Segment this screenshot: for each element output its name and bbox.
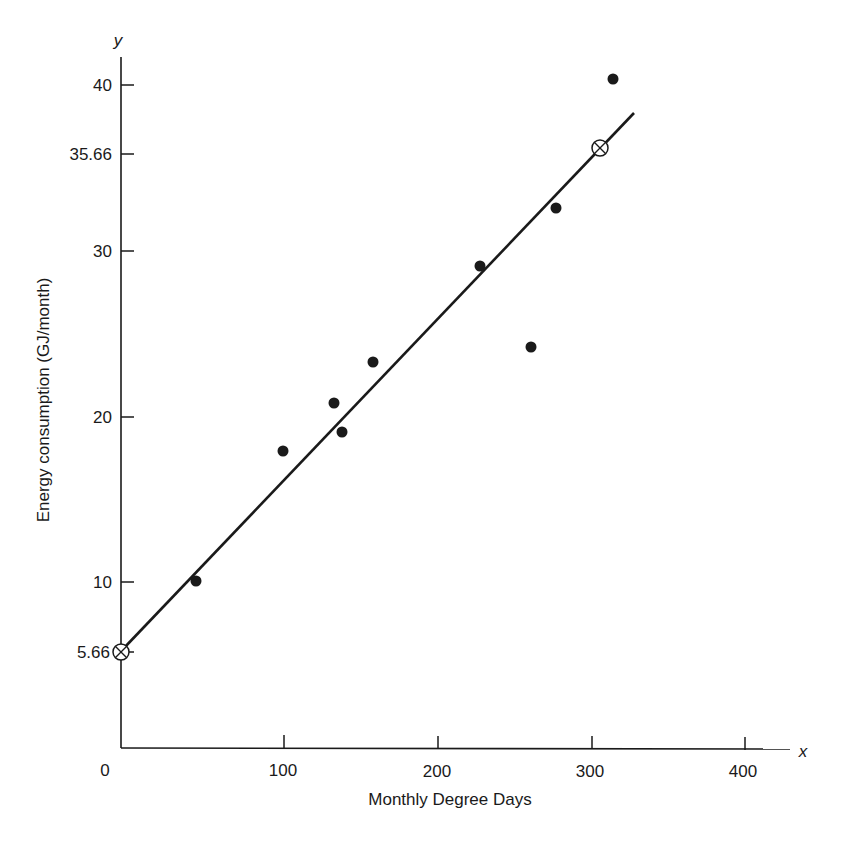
data-point <box>191 576 202 587</box>
x-axis-title: Monthly Degree Days <box>368 790 531 809</box>
y-axis-title: Energy consumption (GJ/month) <box>34 278 53 523</box>
svg-text:40: 40 <box>93 76 112 95</box>
y-tick-labels: 40 35.66 30 20 10 5.66 <box>69 76 112 662</box>
svg-text:5.66: 5.66 <box>77 643 110 662</box>
svg-text:35.66: 35.66 <box>69 145 112 164</box>
scatter-plot: y x 40 35.66 30 20 10 5.66 0 100 200 300… <box>0 0 843 842</box>
data-point <box>368 357 379 368</box>
regression-line <box>124 113 634 648</box>
y-axis-variable: y <box>113 31 124 50</box>
x-axis <box>121 748 790 749</box>
svg-text:100: 100 <box>269 761 297 780</box>
svg-text:300: 300 <box>576 762 604 781</box>
svg-text:400: 400 <box>729 762 757 781</box>
data-point <box>551 203 562 214</box>
data-point <box>475 261 486 272</box>
x-axis-variable: x <box>798 742 808 761</box>
svg-text:20: 20 <box>93 408 112 427</box>
svg-text:200: 200 <box>423 762 451 781</box>
data-point <box>608 74 619 85</box>
x-tick-labels: 0 100 200 300 400 <box>100 761 757 781</box>
data-point <box>278 446 289 457</box>
reference-marker-300 <box>592 140 608 156</box>
reference-marker-intercept <box>113 644 129 660</box>
svg-text:10: 10 <box>93 573 112 592</box>
data-point <box>329 398 340 409</box>
data-point <box>526 342 537 353</box>
data-point <box>337 427 348 438</box>
svg-text:0: 0 <box>100 761 109 780</box>
y-ticks <box>121 85 134 652</box>
svg-text:30: 30 <box>93 242 112 261</box>
